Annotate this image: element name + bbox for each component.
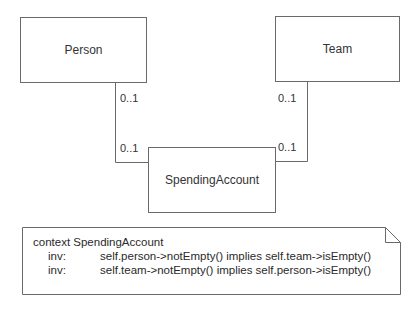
- note-invariant-2-keyword: inv:: [48, 264, 66, 277]
- class-person-name: Person: [64, 43, 102, 57]
- multiplicity-person-end: 0..1: [120, 92, 138, 104]
- class-team-name: Team: [323, 42, 352, 56]
- class-team[interactable]: Team: [275, 16, 400, 82]
- note-invariant-2-expression: self.team->notEmpty() implies self.perso…: [100, 264, 371, 277]
- class-spending-account[interactable]: SpendingAccount: [148, 147, 276, 213]
- note-invariant-1-expression: self.person->notEmpty() implies self.tea…: [100, 250, 371, 263]
- note-context-line: context SpendingAccount: [33, 236, 163, 249]
- class-spending-account-name: SpendingAccount: [165, 173, 259, 187]
- class-person[interactable]: Person: [20, 17, 147, 83]
- multiplicity-team-end: 0..1: [278, 92, 296, 104]
- multiplicity-spendingaccount-person-end: 0..1: [120, 142, 138, 154]
- uml-diagram-canvas: Person Team SpendingAccount 0..1 0..1 0.…: [0, 0, 416, 309]
- multiplicity-spendingaccount-team-end: 0..1: [278, 141, 296, 153]
- note-invariant-1-keyword: inv:: [48, 250, 66, 263]
